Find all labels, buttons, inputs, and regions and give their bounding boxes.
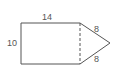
label-left-height: 10 (7, 38, 17, 48)
label-top-length: 14 (42, 12, 52, 22)
label-triangle-upper: 8 (94, 24, 99, 34)
composite-figure: 14 10 8 8 (0, 0, 114, 72)
label-triangle-lower: 8 (94, 54, 99, 64)
rectangle (21, 23, 80, 64)
